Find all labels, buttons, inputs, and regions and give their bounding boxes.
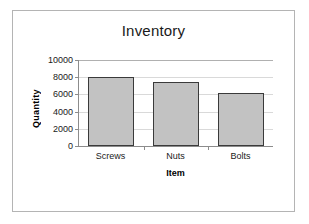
x-tick-mark	[208, 146, 209, 150]
x-axis-tick-labels: ScrewsNutsBolts	[78, 151, 273, 161]
x-tick-mark	[144, 146, 145, 150]
bar-screws[interactable]	[88, 77, 134, 146]
bar-bolts[interactable]	[218, 93, 264, 146]
y-tick-mark	[75, 146, 79, 147]
x-axis-title: Item	[78, 168, 273, 178]
y-tick-label: 8000	[53, 72, 73, 82]
y-tick-label: 4000	[53, 107, 73, 117]
y-tick-label: 0	[68, 141, 73, 151]
bar-series	[79, 60, 273, 146]
x-tick-label: Nuts	[143, 151, 208, 161]
chart-title: Inventory	[13, 22, 294, 39]
x-tick-label: Screws	[78, 151, 143, 161]
bar-slot	[79, 60, 144, 146]
x-tick-label: Bolts	[208, 151, 273, 161]
bar-slot	[208, 60, 273, 146]
chart-frame: Inventory Quantity 020004000600080001000…	[12, 10, 295, 212]
y-axis-title: Quantity	[29, 73, 43, 145]
bar-slot	[144, 60, 209, 146]
bar-nuts[interactable]	[153, 82, 199, 147]
y-tick-label: 2000	[53, 124, 73, 134]
y-tick-label: 6000	[53, 89, 73, 99]
y-tick-label: 10000	[48, 55, 73, 65]
plot-area: 0200040006000800010000	[78, 60, 273, 147]
